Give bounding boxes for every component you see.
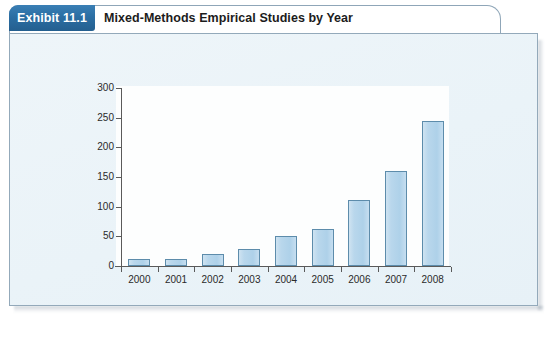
x-axis-label-2008: 2008 <box>413 275 453 285</box>
card-shadow-bottom <box>14 306 543 313</box>
y-axis-tick <box>116 147 121 148</box>
bar-2008 <box>422 121 444 266</box>
y-axis-tick-label-wrap: 300 <box>68 83 114 93</box>
x-axis-tick <box>121 267 122 272</box>
y-axis-tick-label: 200 <box>74 142 114 152</box>
y-axis-tick <box>116 177 121 178</box>
bar-2004 <box>275 236 297 266</box>
y-axis-tick <box>116 88 121 89</box>
x-axis-label-2005: 2005 <box>303 275 343 285</box>
y-axis-tick-label: 150 <box>74 172 114 182</box>
x-axis-label-2001: 2001 <box>156 275 196 285</box>
bar-2007 <box>385 171 407 266</box>
y-axis-tick-label: 50 <box>74 231 114 241</box>
exhibit-body: 050100150200250300 200020012002200320042… <box>9 33 538 306</box>
y-axis-tick <box>116 236 121 237</box>
exhibit-number-tab: Exhibit 11.1 <box>9 5 95 31</box>
x-axis-label-2002: 2002 <box>193 275 233 285</box>
y-axis-tick <box>116 207 121 208</box>
y-axis-tick <box>116 118 121 119</box>
bar-2005 <box>312 229 334 266</box>
x-axis-tick <box>304 267 305 272</box>
exhibit-card: Exhibit 11.1 Mixed-Methods Empirical Stu… <box>0 0 550 347</box>
x-axis-tick <box>158 267 159 272</box>
y-axis-tick-label: 100 <box>74 202 114 212</box>
x-axis-tick <box>194 267 195 272</box>
x-axis-tick <box>378 267 379 272</box>
exhibit-number-label: Exhibit 11.1 <box>17 12 87 25</box>
x-axis-label-2004: 2004 <box>266 275 306 285</box>
x-axis-tick <box>414 267 415 272</box>
x-axis-label-2003: 2003 <box>229 275 269 285</box>
bar-2002 <box>202 254 224 266</box>
exhibit-title: Mixed-Methods Empirical Studies by Year <box>104 11 353 25</box>
bar-2006 <box>348 200 370 266</box>
y-axis-tick-label: 0 <box>74 261 114 271</box>
y-axis-tick-label-wrap: 200 <box>68 142 114 152</box>
y-axis-tick-label-wrap: 250 <box>68 113 114 123</box>
y-axis-tick-label-wrap: 150 <box>68 172 114 182</box>
y-axis-line <box>121 88 122 267</box>
x-axis-line <box>115 266 451 267</box>
x-axis-tick <box>341 267 342 272</box>
y-axis-tick-label: 250 <box>74 113 114 123</box>
y-axis-tick-label-wrap: 100 <box>68 202 114 212</box>
y-axis-tick-label-wrap: 0 <box>68 261 114 271</box>
bar-chart: 050100150200250300 200020012002200320042… <box>10 34 539 307</box>
bar-2000 <box>128 259 150 266</box>
x-axis-tick <box>268 267 269 272</box>
x-axis-label-2006: 2006 <box>339 275 379 285</box>
y-axis-tick-label: 300 <box>74 83 114 93</box>
bar-2001 <box>165 259 187 266</box>
x-axis-label-2000: 2000 <box>119 275 159 285</box>
y-axis-tick-label-wrap: 50 <box>68 231 114 241</box>
x-axis-tick <box>231 267 232 272</box>
x-axis-label-2007: 2007 <box>376 275 416 285</box>
x-axis-tick <box>451 267 452 272</box>
bar-2003 <box>238 249 260 266</box>
